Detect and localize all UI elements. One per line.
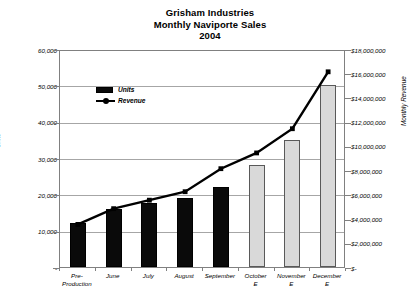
legend-item-units: Units [96,84,146,95]
y-axis-left-title: Units [0,133,1,148]
y-axis-left-tick-label: 20,000 [0,192,57,199]
x-axis-tick-mark [274,268,275,271]
y-axis-right-tick-label: $- [351,265,420,272]
plot-area [59,50,345,268]
y-axis-right-tick-label: $8,000,000 [351,168,420,175]
revenue-data-point-marker [183,189,188,194]
y-axis-right-tick-label: $4,000,000 [351,216,420,223]
x-axis-tick-label: December E [299,272,355,288]
x-axis-tick-mark [309,268,310,271]
y-axis-left-tick-label: 30,000 [0,156,57,163]
legend-bar-swatch-icon [96,87,113,93]
revenue-data-point-marker [147,198,152,203]
chart-title-line-3: 2004 [0,30,420,42]
x-axis-tick-mark [166,268,167,271]
x-axis-tick-mark [345,268,346,271]
chart-title-line-2: Monthly Naviporte Sales [0,19,420,31]
revenue-data-point-marker [218,166,223,171]
revenue-data-point-marker [75,222,80,227]
y-axis-right-tick-label: $14,000,000 [351,95,420,102]
y-axis-left-tick-label: - [0,265,57,272]
chart-container: Grisham Industries Monthly Naviporte Sal… [0,0,420,307]
y-axis-right-tick-label: $2,000,000 [351,240,420,247]
y-axis-left-tick-label: 10,000 [0,228,57,235]
revenue-data-point-marker [254,151,259,156]
y-axis-right-tick-label: $12,000,000 [351,119,420,126]
legend-label-units: Units [118,86,134,93]
legend-item-revenue: Revenue [96,95,146,106]
chart-title-line-1: Grisham Industries [0,7,420,19]
legend-label-revenue: Revenue [118,97,146,104]
x-axis-tick-mark [238,268,239,271]
y-axis-left-tick-label: 40,000 [0,119,57,126]
revenue-data-point-marker [111,206,116,211]
line-series-revenue [60,50,346,268]
y-axis-right-tick-label: $10,000,000 [351,143,420,150]
y-axis-right-tick-label: $6,000,000 [351,192,420,199]
x-axis-tick-mark [202,268,203,271]
legend-line-swatch-icon [96,97,115,104]
x-axis-tick-mark [59,268,60,271]
y-axis-right-tick-label: $18,000,000 [351,47,420,54]
revenue-data-point-marker [290,126,295,131]
revenue-data-point-marker [326,69,331,74]
x-axis-tick-mark [131,268,132,271]
x-axis-tick-mark [95,268,96,271]
y-axis-right-tick-label: $16,000,000 [351,71,420,78]
chart-title: Grisham Industries Monthly Naviporte Sal… [0,7,420,42]
chart-legend: Units Revenue [96,84,146,106]
y-axis-left-tick-label: 50,000 [0,83,57,90]
y-axis-left-tick-label: 60,000 [0,47,57,54]
